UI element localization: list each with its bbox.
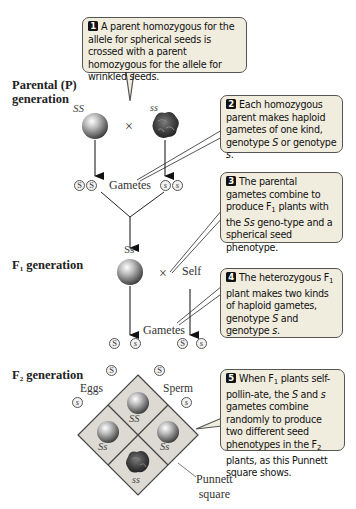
step-badge: 5 [226, 373, 236, 383]
f1-generation-label: F1 generation [12, 258, 83, 276]
step-badge: 2 [226, 99, 236, 109]
sperm-allele-S: S [154, 365, 165, 376]
f1-gamete-s: s [196, 338, 207, 349]
gamete-S: S [86, 180, 97, 191]
punnett-cell-SS: SS [129, 413, 140, 424]
step-badge: 1 [88, 21, 98, 31]
callout-3: 3The parental gametes combine to produce… [220, 172, 343, 243]
f1-gamete-S: S [109, 338, 120, 349]
step-badge: 4 [226, 272, 236, 282]
sperm-allele-s: s [181, 397, 192, 408]
sperm-label: Sperm [163, 382, 193, 394]
step-badge: 3 [226, 176, 236, 186]
punnett-cell-Ss-left: Ss [98, 441, 107, 452]
f1-genotype: Ss [124, 243, 134, 255]
cross-symbol: × [125, 119, 133, 135]
punnett-cell-ss: ss [132, 474, 140, 485]
f1-gametes-label: Gametes [143, 323, 185, 338]
callout-4: 4The heterozygous F1 plant makes two kin… [220, 268, 343, 338]
f1-gamete-S: S [177, 338, 188, 349]
spherical-seed-icon [82, 113, 108, 139]
wrinkled-seed-icon [153, 112, 179, 138]
callout-1: 1A parent homozygous for the allele for … [82, 17, 247, 73]
f1-spherical-seed-icon [117, 259, 143, 285]
self-label: Self [182, 264, 201, 279]
f1-gamete-s: s [130, 338, 141, 349]
f2-generation-label: F2 generation [12, 368, 83, 386]
self-cross-symbol: × [159, 266, 167, 282]
egg-allele-S: S [106, 365, 117, 376]
gamete-S: S [74, 180, 85, 191]
parent-genotype-ss: ss [150, 102, 158, 113]
callout-5: 5When F1 plants self-pollin-ate, the S a… [220, 369, 345, 451]
parent-genotype-SS: SS [73, 102, 84, 114]
gametes-label: Gametes [109, 178, 151, 193]
eggs-label: Eggs [80, 382, 103, 394]
parental-generation-label: Parental (P) generation [12, 78, 82, 106]
egg-allele-s: s [72, 397, 83, 408]
callout-2: 2Each homozygous parent makes haploid ga… [220, 95, 343, 153]
gamete-s: s [160, 180, 171, 191]
punnett-cell-Ss-right: Ss [160, 441, 169, 452]
gamete-s: s [172, 180, 183, 191]
